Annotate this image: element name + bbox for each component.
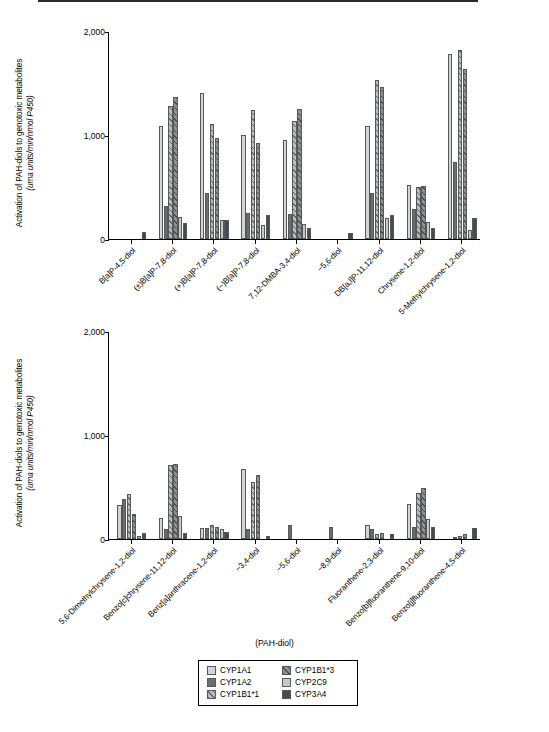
bar: [385, 218, 389, 239]
legend-swatch: [207, 678, 216, 687]
bar-group: [283, 32, 312, 239]
bar: [288, 525, 292, 539]
bar: [127, 494, 131, 539]
bar: [173, 464, 177, 539]
legend-swatch: [282, 666, 291, 675]
bars-container-top: [109, 32, 480, 239]
bar: [168, 106, 172, 239]
y-tick-mark: [105, 332, 109, 333]
x-tick-mark: [255, 540, 256, 544]
bar: [412, 527, 416, 539]
legend-item: CYP2C9: [282, 678, 349, 687]
plot-area-top: 01,0002,000: [108, 32, 480, 240]
bar: [283, 140, 287, 239]
x-tick-mark: [379, 540, 380, 544]
bar: [348, 233, 352, 239]
bar-group: [283, 332, 312, 539]
bar: [122, 499, 126, 539]
y-axis-label-bottom-line1: Activation of PAH-diols to genotoxic met…: [14, 328, 25, 558]
bar: [426, 519, 430, 539]
bar: [142, 533, 146, 539]
y-axis-label-top: Activation of PAH-diols to genotoxic met…: [14, 28, 36, 258]
y-tick-mark: [105, 436, 109, 437]
bar: [468, 230, 472, 239]
legend-swatch: [282, 678, 291, 687]
bar: [241, 135, 245, 239]
bar: [302, 224, 306, 239]
x-tick-mark: [131, 540, 132, 544]
bar: [132, 514, 136, 539]
bar: [164, 529, 168, 539]
figure-root: Activation of PAH-diols to genotoxic met…: [0, 0, 549, 732]
legend-label: CYP1B1*3: [295, 666, 334, 675]
bar: [220, 220, 224, 239]
bar-group: [117, 32, 146, 239]
bar-group: [407, 32, 436, 239]
y-axis-label-top-line2: (uma units/min/nmol P450): [25, 28, 36, 258]
bar: [380, 87, 384, 239]
bar: [426, 222, 430, 239]
bar-group: [365, 32, 394, 239]
x-tick-mark: [461, 240, 462, 244]
x-tick-mark: [172, 240, 173, 244]
x-tick-mark: [379, 240, 380, 244]
bar: [421, 186, 425, 239]
bar: [375, 80, 379, 239]
bar: [256, 143, 260, 239]
bar: [453, 537, 457, 539]
bar: [307, 228, 311, 239]
bar: [246, 529, 250, 539]
legend-item: CYP1A2: [207, 678, 274, 687]
bar: [224, 532, 228, 539]
x-tick-mark: [461, 540, 462, 544]
bar: [365, 525, 369, 539]
x-axis-caption: (PAH-diol): [0, 638, 549, 648]
bar: [329, 527, 333, 539]
y-axis-label-bottom-line2: (uma units/min/nmol P450): [25, 328, 36, 558]
y-tick-mark: [105, 240, 109, 241]
y-axis-label-top-line1: Activation of PAH-diols to genotoxic met…: [14, 28, 25, 258]
bar-group: [324, 332, 353, 539]
x-tick-mark: [420, 240, 421, 244]
x-tick-mark: [296, 240, 297, 244]
y-tick-mark: [105, 540, 109, 541]
bar-group: [407, 332, 436, 539]
bar: [159, 126, 163, 239]
bar: [142, 232, 146, 239]
bar: [375, 534, 379, 539]
bar: [117, 505, 121, 539]
bar: [407, 185, 411, 239]
x-tick-mark: [296, 540, 297, 544]
bar: [266, 215, 270, 239]
x-tick-mark: [420, 540, 421, 544]
bars-container-bottom: [109, 332, 480, 539]
bar-group: [448, 332, 477, 539]
bar: [292, 121, 296, 239]
x-tick-mark: [172, 540, 173, 544]
bar: [261, 225, 265, 239]
bar: [453, 162, 457, 239]
bar: [200, 93, 204, 239]
bar: [297, 109, 301, 239]
bar: [416, 187, 420, 239]
bar: [164, 206, 168, 239]
bar: [168, 465, 172, 539]
bar: [448, 54, 452, 239]
bar: [215, 527, 219, 539]
x-tick-mark: [255, 240, 256, 244]
bar: [246, 213, 250, 239]
bar-group: [448, 32, 477, 239]
bar: [370, 193, 374, 239]
bar: [458, 50, 462, 239]
plot-area-bottom: 01,0002,000: [108, 332, 480, 540]
bar: [370, 529, 374, 539]
bar-group: [200, 332, 229, 539]
bar: [380, 533, 384, 539]
y-tick-mark: [105, 32, 109, 33]
bar: [137, 536, 141, 539]
x-tick-label: 5,6-Dimethylchrysene-1,2-diol: [0, 546, 137, 694]
bar: [178, 217, 182, 239]
bar: [407, 504, 411, 539]
bar: [421, 488, 425, 539]
bar: [472, 528, 476, 539]
